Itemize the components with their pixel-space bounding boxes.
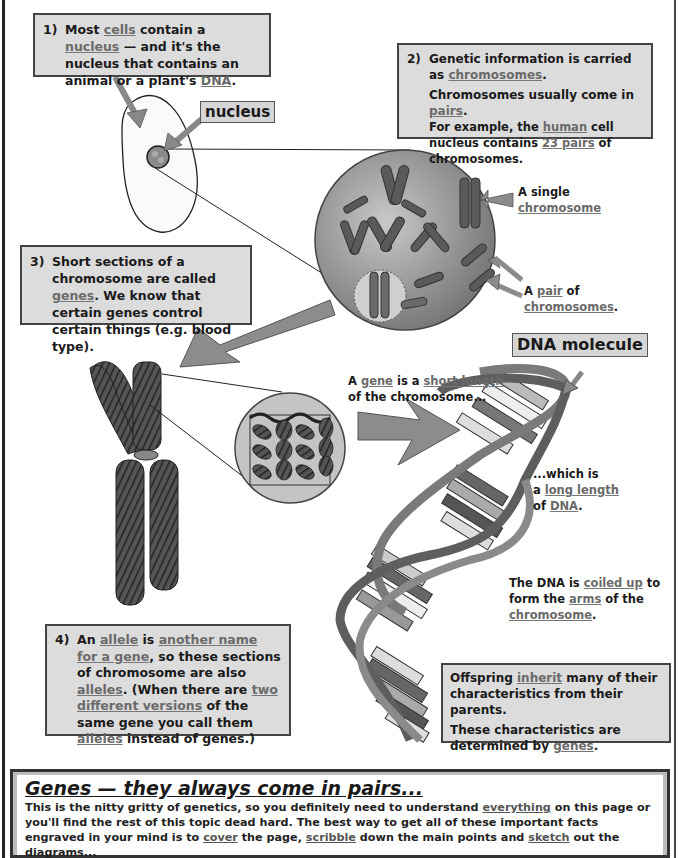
box-number: 2) — [407, 51, 421, 67]
box-number: 1) — [43, 21, 57, 38]
dna-molecule-label-tag: DNA molecule — [512, 333, 648, 357]
arrow-to-dna — [358, 398, 460, 465]
box-number: 3) — [30, 253, 44, 270]
box-4-text: An allele is another name for a gene, so… — [77, 632, 281, 748]
box-5-line-2: These characteristics are determined by … — [450, 722, 662, 754]
summary-title: Genes — they always come in pairs... — [25, 776, 655, 800]
box-2-line-2: Chromosomes usually come in pairs. — [429, 87, 643, 119]
box-2-line-1: Genetic information is carried as chromo… — [429, 51, 643, 83]
summary-panel: Genes — they always come in pairs... Thi… — [10, 769, 670, 858]
label-single-chromosome: A single chromosome — [518, 184, 601, 216]
info-box-3-genes: 3) Short sections of a chromosome are ca… — [20, 245, 252, 325]
info-box-4-alleles: 4) An allele is another name for a gene,… — [45, 624, 291, 736]
box-2-line-3: For example, the human cell nucleus cont… — [429, 119, 643, 167]
box-5-line-1: Offspring inherit many of their characte… — [450, 670, 662, 718]
nucleus-zoom-circle — [315, 150, 496, 330]
box-number: 4) — [55, 632, 69, 649]
label-long-length-dna: ...which is a long length of DNA. — [533, 466, 619, 514]
nucleus-label-tag: nucleus — [200, 101, 275, 123]
large-chromosome — [90, 362, 178, 605]
label-coiled-up: The DNA is coiled up to form the arms of… — [509, 575, 660, 623]
label-pair-of-chromosomes: A pair of chromosomes. — [524, 283, 618, 315]
summary-text: This is the nitty gritty of genetics, so… — [25, 800, 655, 858]
info-box-1-cells-nucleus: 1) Most cells contain a nucleus — and it… — [33, 13, 271, 77]
box-1-text: Most cells contain a nucleus — and it's … — [65, 21, 261, 89]
info-box-2-chromosomes: 2) Genetic information is carried as chr… — [397, 43, 653, 139]
info-box-5-inheritance: Offspring inherit many of their characte… — [441, 663, 671, 743]
arrow-dna-molecule-tag — [562, 372, 582, 395]
label-gene-short-length: A gene is a short length of the chromoso… — [348, 373, 503, 405]
box-3-text: Short sections of a chromosome are calle… — [52, 253, 242, 355]
chromatin-inset — [235, 393, 345, 503]
